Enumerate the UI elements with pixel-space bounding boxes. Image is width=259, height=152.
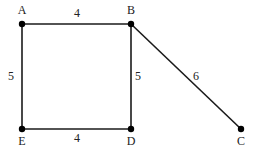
weighted-graph-diagram: 45546 ABCDE: [0, 0, 259, 152]
node-B: [128, 21, 134, 27]
edge-weight-BD: 5: [135, 69, 141, 83]
edge-BC: [131, 24, 241, 129]
node-label-B: B: [127, 3, 135, 17]
node-D: [128, 126, 134, 132]
node-E: [19, 126, 25, 132]
edges: [22, 24, 241, 129]
node-label-C: C: [237, 134, 245, 148]
edge-weight-ED: 4: [74, 131, 80, 145]
node-C: [238, 126, 244, 132]
node-label-D: D: [127, 134, 136, 148]
edge-weight-AB: 4: [74, 6, 80, 20]
node-label-E: E: [18, 134, 25, 148]
node-label-A: A: [18, 3, 27, 17]
edge-weight-AE: 5: [8, 69, 14, 83]
edge-labels: 45546: [8, 6, 199, 145]
node-A: [19, 21, 25, 27]
edge-weight-BC: 6: [193, 69, 199, 83]
